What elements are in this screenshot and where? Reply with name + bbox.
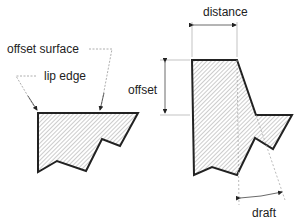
arrow-icon	[100, 93, 104, 110]
arrow-icon	[28, 96, 37, 110]
offset-label: offset	[128, 84, 157, 96]
draft-label: draft	[252, 207, 276, 219]
distance-label: distance	[203, 6, 248, 18]
offset-surface-leader	[89, 49, 112, 107]
diagram-canvas	[0, 0, 295, 220]
draft-angle-arc	[240, 192, 282, 198]
lip-edge-label: lip edge	[44, 70, 86, 82]
lip-profile-shape	[38, 113, 138, 172]
offset-surface-label: offset surface	[7, 43, 79, 55]
right-figure	[160, 22, 292, 205]
offset-lip-profile-shape	[192, 60, 292, 175]
left-figure	[16, 49, 138, 172]
